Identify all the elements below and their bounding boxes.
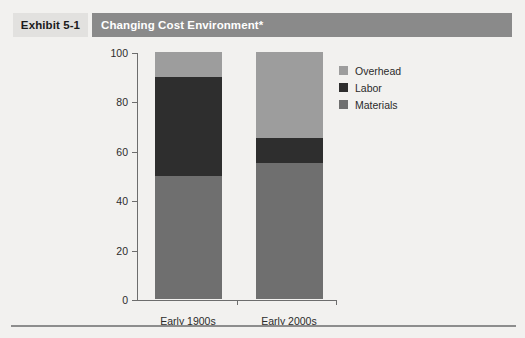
bar-segment-labor[interactable] [155,77,222,176]
y-axis-line [137,53,138,301]
bar-early-2000s[interactable] [256,52,323,299]
bar-segment-materials[interactable] [155,176,222,300]
plot-area: 100 80 60 40 20 0 [137,53,337,300]
exhibit-number-box: Exhibit 5-1 [13,13,88,37]
legend-swatch-labor-icon [339,83,348,92]
exhibit-header: Exhibit 5-1 Changing Cost Environment* [0,13,525,37]
bar-segment-materials[interactable] [256,163,323,299]
x-tick-right [336,300,337,305]
bar-early-1900s[interactable] [155,52,222,299]
y-tick-mark [132,300,137,301]
exhibit-title-text: Changing Cost Environment* [101,19,263,31]
y-tick-label: 60 [116,146,128,158]
y-tick-label: 100 [110,47,128,59]
exhibit-title-bar: Changing Cost Environment* [92,13,512,37]
legend: Overhead Labor Materials [339,63,401,114]
legend-item-materials[interactable]: Materials [339,97,401,112]
y-tick-label: 0 [122,294,128,306]
y-tick-label: 40 [116,195,128,207]
y-tick-mark [132,152,137,153]
y-tick-mark [132,102,137,103]
exhibit-number-label: Exhibit 5-1 [21,19,80,31]
x-tick-middle [237,300,238,305]
legend-label-materials: Materials [355,99,398,111]
legend-label-labor: Labor [355,82,382,94]
y-tick-mark [132,251,137,252]
legend-item-overhead[interactable]: Overhead [339,63,401,78]
bar-segment-overhead[interactable] [155,52,222,77]
y-tick-label: 80 [116,96,128,108]
bottom-divider [11,325,516,327]
legend-item-labor[interactable]: Labor [339,80,401,95]
bar-segment-labor[interactable] [256,138,323,163]
legend-label-overhead: Overhead [355,65,401,77]
legend-swatch-materials-icon [339,100,348,109]
legend-swatch-overhead-icon [339,66,348,75]
bar-segment-overhead[interactable] [256,52,323,138]
y-tick-mark [132,201,137,202]
y-tick-mark [132,53,137,54]
chart-area: 100 80 60 40 20 0 [0,45,525,315]
y-tick-label: 20 [116,245,128,257]
